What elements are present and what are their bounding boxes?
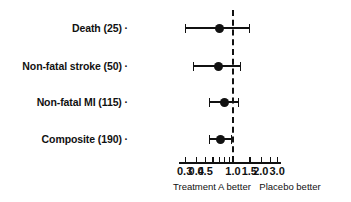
point-estimate-marker xyxy=(215,24,224,33)
forest-plot: Death (25) ·Non-fatal stroke (50) ·Non-f… xyxy=(0,0,351,202)
row-label-tick-marker: · xyxy=(122,22,128,34)
axis-caption-right: Placebo better xyxy=(259,181,320,192)
confidence-interval-cap-upper xyxy=(238,98,239,107)
x-axis-tick xyxy=(261,157,262,164)
confidence-interval-cap-lower xyxy=(193,62,194,71)
x-axis-tick-label: 2.0 xyxy=(253,165,268,177)
row-label-tick-marker: · xyxy=(122,96,128,108)
row-label-2: Non-fatal MI (115) · xyxy=(37,96,128,108)
x-axis-tick-label: 0.5 xyxy=(197,165,212,177)
row-label-text: Non-fatal MI (115) xyxy=(37,96,122,108)
point-estimate-marker xyxy=(216,135,225,144)
x-axis-tick xyxy=(212,157,213,162)
x-axis-tick xyxy=(229,157,230,162)
point-estimate-marker xyxy=(220,98,229,107)
x-axis-tick-label: 1.0 xyxy=(225,165,240,177)
x-axis-tick xyxy=(233,157,234,164)
x-axis-tick xyxy=(249,157,250,164)
x-axis-tick-label: 3.0 xyxy=(269,165,284,177)
confidence-interval-cap-lower xyxy=(209,98,210,107)
x-axis-tick xyxy=(277,157,278,164)
axis-caption-left: Treatment A better xyxy=(173,181,251,192)
x-axis-tick xyxy=(270,157,271,162)
x-axis-tick xyxy=(196,157,197,164)
confidence-interval-cap-upper xyxy=(231,135,232,144)
confidence-interval-cap-lower xyxy=(209,135,210,144)
point-estimate-marker xyxy=(214,62,223,71)
row-label-0: Death (25) · xyxy=(72,22,128,34)
x-axis-tick xyxy=(224,157,225,162)
x-axis-tick xyxy=(205,157,206,164)
confidence-interval-cap-upper xyxy=(240,62,241,71)
row-label-tick-marker: · xyxy=(122,133,128,145)
x-axis-line xyxy=(179,162,281,164)
confidence-interval-cap-upper xyxy=(249,24,250,33)
row-label-text: Composite (190) xyxy=(42,133,122,145)
row-label-3: Composite (190) · xyxy=(42,133,128,145)
row-label-text: Non-fatal stroke (50) xyxy=(22,60,121,72)
row-label-text: Death (25) xyxy=(72,22,122,34)
row-label-1: Non-fatal stroke (50) · xyxy=(22,60,128,72)
row-label-tick-marker: · xyxy=(122,60,128,72)
x-axis-tick xyxy=(185,157,186,164)
x-axis-tick xyxy=(219,157,220,162)
confidence-interval-cap-lower xyxy=(185,24,186,33)
